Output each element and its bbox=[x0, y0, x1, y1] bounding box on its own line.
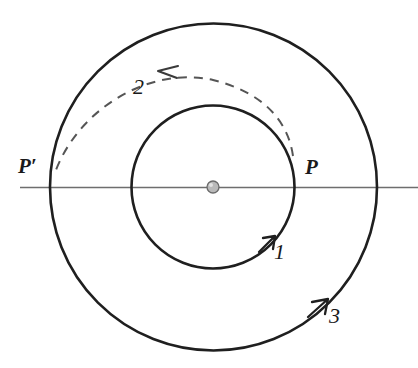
central-body-dot bbox=[207, 181, 219, 193]
transfer-arc-arrowhead bbox=[158, 66, 178, 78]
label-orbit-1: 1 bbox=[274, 241, 285, 263]
label-point-p-prime: P′ bbox=[18, 156, 37, 177]
figure-canvas bbox=[0, 0, 418, 368]
orbit-transfer-figure: P′ P 1 2 3 bbox=[0, 0, 418, 368]
label-transfer-2: 2 bbox=[133, 76, 144, 98]
label-orbit-3: 3 bbox=[329, 305, 340, 327]
label-point-p: P bbox=[305, 157, 318, 178]
central-body-highlight bbox=[209, 183, 213, 187]
transfer-arc-dashed bbox=[56, 77, 293, 170]
